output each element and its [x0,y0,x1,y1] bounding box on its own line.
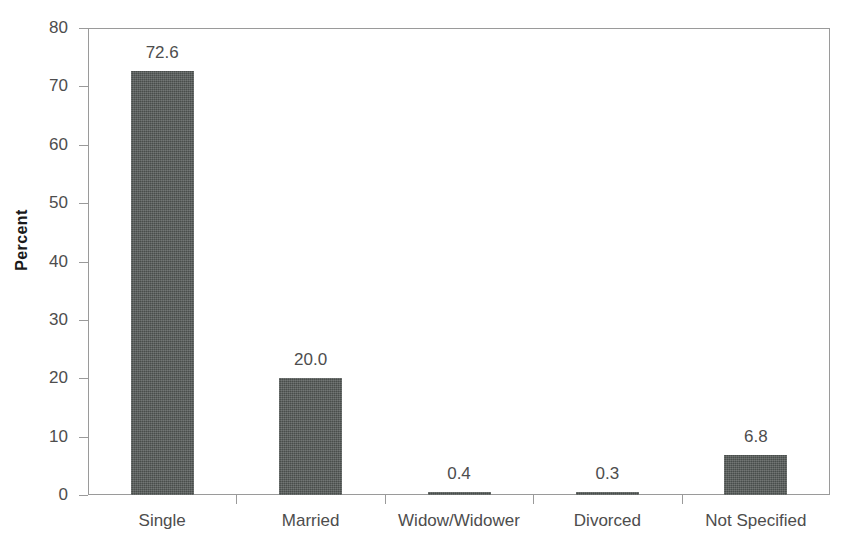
y-axis-tick [79,320,88,321]
bar [576,492,639,495]
bar-chart-figure: Percent 01020304050607080 SingleMarriedW… [0,0,852,553]
y-axis-tick [79,262,88,263]
x-axis-tick [385,495,386,504]
y-axis-tick [79,203,88,204]
bar [428,492,491,495]
bar-value-label: 6.8 [706,428,806,445]
y-axis-tick-label: 10 [26,428,68,445]
y-axis-tick [79,145,88,146]
x-axis-tick [533,495,534,504]
bar [131,71,194,495]
bar-value-label: 0.4 [409,465,509,482]
y-axis-tick-label: 0 [26,486,68,503]
bar-value-label: 0.3 [557,465,657,482]
x-axis-tick [236,495,237,504]
y-axis-tick-label: 30 [26,311,68,328]
y-axis-tick-label: 70 [26,77,68,94]
y-axis-tick [79,378,88,379]
bar [279,378,342,495]
y-axis-tick-label: 50 [26,194,68,211]
plot-area [88,28,830,495]
y-axis-tick-label: 60 [26,136,68,153]
x-axis-tick-label: Not Specified [666,512,846,529]
y-axis-tick-label: 40 [26,253,68,270]
y-axis-tick-label: 20 [26,369,68,386]
y-axis-tick-label: 80 [26,19,68,36]
y-axis-tick [79,495,88,496]
bar [724,455,787,495]
x-axis-tick [682,495,683,504]
bar-value-label: 20.0 [261,351,361,368]
y-axis-tick [79,86,88,87]
bar-value-label: 72.6 [112,44,212,61]
y-axis-tick [79,437,88,438]
y-axis-tick [79,28,88,29]
